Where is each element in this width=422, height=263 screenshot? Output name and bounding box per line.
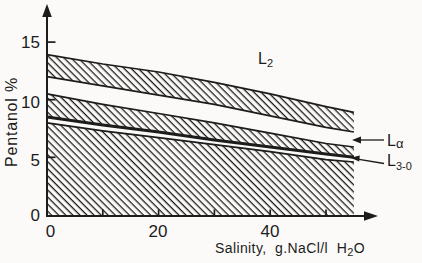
x-tick-label-20: 20: [149, 222, 168, 241]
region-label-l2: L2: [258, 50, 273, 69]
y-axis-arrow-icon: [42, 4, 52, 17]
y-tick-label-0: 0: [31, 206, 40, 225]
x-axis-arrow-icon: [364, 211, 378, 221]
x-axis-title: Salinity, g.NaCl/l H2O: [215, 240, 365, 258]
x-tick-label-40: 40: [261, 222, 280, 241]
x-tick-label-0: 0: [46, 222, 55, 241]
y-axis-title: Pentanol %: [3, 77, 20, 167]
l3-0-leader-line: [356, 159, 384, 164]
l-alpha-arrow-icon: [352, 137, 361, 144]
y-tick-label-10: 10: [21, 93, 40, 112]
phase-diagram-svg: 15 10 5 0 0 20 40 Salinity, g.NaCl/l H2O…: [0, 0, 422, 263]
region-label-l-alpha: Lα: [387, 132, 404, 151]
hatched-bands: [47, 55, 354, 216]
y-tick-label-15: 15: [21, 33, 40, 52]
region-label-l3-0: L3-0: [387, 152, 412, 172]
y-tick-label-5: 5: [31, 151, 40, 170]
phase-diagram-figure: 15 10 5 0 0 20 40 Salinity, g.NaCl/l H2O…: [0, 0, 422, 263]
